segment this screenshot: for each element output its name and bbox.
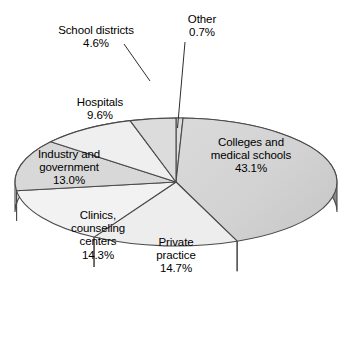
slice-label-colleges-and-medical-schools: Colleges and medical schools 43.1% [193, 136, 309, 176]
pie-chart-figure: Other 0.7% School districts 4.6% Hospita… [0, 0, 351, 351]
slice-label-clinics-counseling-centers: Clinics, counseling centers 14.3% [59, 209, 137, 262]
slice-label-private-practice: Private practice 14.7% [140, 236, 212, 276]
slice-label-industry-and-government: Industry and government 13.0% [21, 148, 117, 188]
slice-label-hospitals: Hospitals 9.6% [62, 96, 138, 122]
chart-title-clipped [0, 0, 351, 10]
slice-label-school-districts: School districts 4.6% [41, 24, 151, 50]
leader-line-other [178, 42, 186, 128]
slice-label-other: Other 0.7% [167, 13, 237, 39]
